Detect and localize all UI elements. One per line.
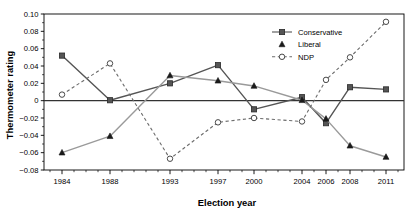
y-tick-label: −0.04: [19, 131, 38, 140]
x-tick-label: 2000: [246, 177, 263, 186]
data-point-marker: [107, 61, 112, 66]
data-point-marker: [347, 85, 352, 90]
data-point-marker: [251, 115, 256, 120]
x-tick-label: 1984: [54, 177, 71, 186]
legend-label: NDP: [298, 53, 314, 62]
data-point-marker: [383, 19, 388, 24]
y-tick-label: 0.02: [24, 79, 39, 88]
data-point-marker: [215, 63, 220, 68]
data-point-marker: [347, 55, 352, 60]
data-point-marker: [299, 119, 304, 124]
chart-figure: 0.100.080.060.040.020−0.02−0.04−0.06−0.0…: [0, 0, 415, 214]
data-point-marker: [279, 54, 284, 59]
y-tick-label: 0: [34, 96, 38, 105]
data-point-marker: [383, 87, 388, 92]
x-tick-label: 1993: [162, 177, 179, 186]
x-tick-label: 2004: [294, 177, 311, 186]
x-tick-label: 1997: [210, 177, 227, 186]
y-tick-label: −0.08: [19, 166, 38, 175]
data-point-marker: [59, 92, 64, 97]
legend-label: Liberal: [298, 40, 321, 49]
data-point-marker: [215, 120, 220, 125]
data-point-marker: [323, 77, 328, 82]
data-point-marker: [279, 29, 284, 34]
y-tick-label: −0.02: [19, 114, 38, 123]
data-point-marker: [251, 107, 256, 112]
x-tick-label: 2006: [318, 177, 335, 186]
legend-label: Conservative: [298, 28, 342, 37]
y-tick-label: 0.10: [24, 10, 39, 19]
x-axis-tick-labels: 198419881993199720002004200620082011: [54, 177, 395, 186]
data-point-marker: [59, 53, 64, 58]
data-point-marker: [107, 98, 112, 103]
y-tick-label: −0.06: [19, 148, 38, 157]
y-tick-label: 0.04: [24, 62, 39, 71]
x-tick-label: 2011: [378, 177, 394, 186]
y-tick-label: 0.06: [24, 44, 39, 53]
x-tick-label: 1988: [102, 177, 119, 186]
y-axis-title: Thermometer rating: [4, 50, 15, 139]
data-point-marker: [167, 81, 172, 86]
x-axis-title: Election year: [198, 197, 257, 208]
y-tick-label: 0.08: [24, 27, 39, 36]
data-point-marker: [167, 156, 172, 161]
thermometer-rating-line-chart: 0.100.080.060.040.020−0.02−0.04−0.06−0.0…: [0, 0, 415, 214]
x-tick-label: 2008: [342, 177, 359, 186]
